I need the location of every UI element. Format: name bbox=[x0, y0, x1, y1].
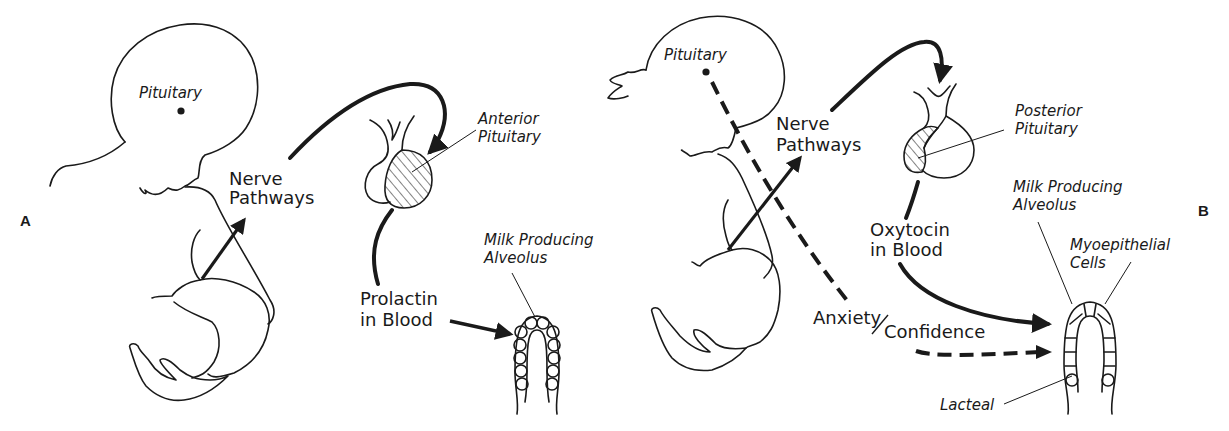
panel-a-pituitary-label: Pituitary bbox=[139, 84, 203, 102]
panel-b-gland-label-line2: Pituitary bbox=[1015, 120, 1079, 138]
panel-a-pituitary-to-blood-line bbox=[374, 210, 392, 284]
panel-a-alveolus-label-line2: Alveolus bbox=[483, 249, 547, 267]
panel-b-hormone-label-line1: Oxytocin bbox=[870, 219, 950, 240]
panel-b-pituitary-to-blood-line bbox=[906, 182, 918, 218]
panel-b-alveolus-leader bbox=[1038, 222, 1072, 304]
panel-a-nerve-label-line2: Pathways bbox=[229, 187, 314, 208]
panel-a-pituitary-dot bbox=[177, 107, 184, 114]
panel-a-anterior-pituitary-gland bbox=[365, 116, 432, 208]
panel-b-confidence-arrowhead bbox=[1036, 345, 1052, 359]
panel-b-myo-label-line1: Myoepithelial bbox=[1070, 236, 1171, 254]
panel-b-myo-leader bbox=[1105, 262, 1131, 304]
panel-b-confidence-arrow bbox=[916, 351, 1040, 355]
panel-b-lacteal-leader bbox=[1004, 376, 1072, 404]
panel-a-gland-label-line2: Pituitary bbox=[478, 128, 542, 146]
panel-b-letter: B bbox=[1198, 202, 1209, 219]
panel-b-myo-label-line2: Cells bbox=[1070, 254, 1106, 272]
panel-b: B Pituitary Nerve Pathways Pos bbox=[608, 16, 1209, 414]
panel-b-mother-infant-illustration bbox=[608, 16, 784, 370]
panel-b-gland-label-line1: Posterior bbox=[1015, 102, 1083, 120]
panel-a-nerve-to-pituitary-arrow bbox=[290, 84, 445, 158]
panel-a-hormone-label-line2: in Blood bbox=[360, 309, 433, 330]
panel-b-lacteal-label: Lacteal bbox=[940, 396, 995, 414]
panel-b-hormone-label-line2: in Blood bbox=[870, 239, 943, 260]
panel-a-nerve-label-line1: Nerve bbox=[229, 168, 283, 189]
panel-a-alveolus bbox=[514, 316, 560, 414]
panel-a-letter: A bbox=[20, 212, 31, 229]
panel-b-alveolus-label-line1: Milk Producing bbox=[1013, 178, 1123, 196]
panel-b-pituitary-dot bbox=[702, 68, 709, 75]
cropped-caption-strip bbox=[40, 424, 340, 431]
panel-b-nerve-label-line1: Nerve bbox=[776, 113, 830, 134]
panel-a-hormone-label-line1: Prolactin bbox=[360, 288, 438, 309]
panel-b-posterior-pituitary-gland bbox=[904, 84, 974, 178]
panel-b-confidence-label: Confidence bbox=[884, 321, 985, 342]
panel-a-mother-infant-illustration bbox=[50, 24, 274, 400]
panel-a-alveolus-leader bbox=[512, 273, 535, 317]
panel-b-anxiety-label: Anxiety bbox=[813, 307, 882, 328]
panel-b-nerve-to-pituitary-arrow bbox=[832, 42, 942, 110]
panel-a-prolactin-arrow bbox=[450, 321, 510, 334]
lactation-reflex-diagram: A Pituitary Nerve Pathways Anterior P bbox=[0, 0, 1229, 431]
panel-b-pituitary-label: Pituitary bbox=[664, 46, 728, 64]
panel-b-nerve-label-line2: Pathways bbox=[776, 134, 861, 155]
panel-a: A Pituitary Nerve Pathways Anterior P bbox=[20, 24, 594, 414]
panel-b-alveolus-label-line2: Alveolus bbox=[1012, 196, 1076, 214]
panel-a-alveolus-label-line1: Milk Producing bbox=[484, 231, 594, 249]
panel-a-gland-label-line1: Anterior bbox=[477, 110, 539, 128]
panel-b-alveolus bbox=[1064, 302, 1116, 414]
panel-a-anterior-pituitary-leader bbox=[412, 130, 476, 172]
panel-a-nerve-arrow bbox=[202, 220, 244, 279]
panel-b-oxytocin-arrow bbox=[900, 264, 1048, 324]
